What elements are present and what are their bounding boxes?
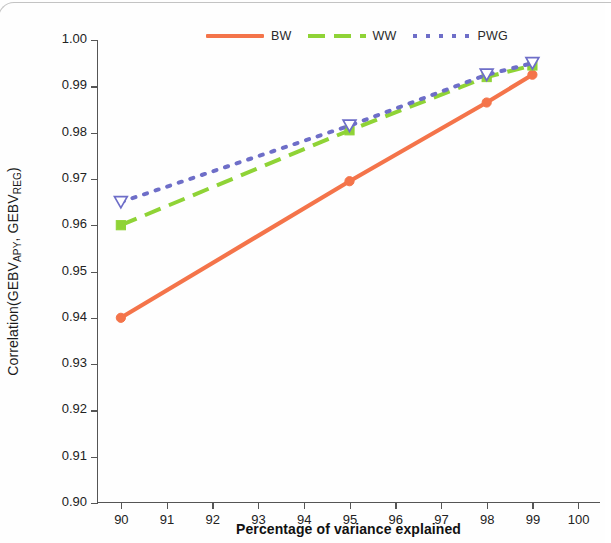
data-point-marker-bw [528, 70, 537, 79]
y-tick-label: 0.99 [62, 77, 87, 92]
x-tick-mark [395, 502, 396, 509]
y-tick-label: 0.91 [62, 448, 87, 463]
x-tick-mark [121, 502, 122, 509]
y-tick-label: 1.00 [62, 31, 87, 46]
y-tick-mark [91, 410, 98, 411]
x-tick-mark [487, 502, 488, 509]
data-point-marker-bw [482, 98, 491, 107]
y-axis-title: Correlation(GEBVAPY, GEBVREG) [0, 0, 28, 543]
x-tick-mark [532, 502, 533, 509]
x-tick-mark [441, 502, 442, 509]
y-tick-mark [91, 503, 98, 504]
plot-area: 0.900.910.920.930.940.950.960.970.980.99… [97, 40, 600, 503]
series-line-ww [121, 65, 533, 225]
series-line-bw [121, 75, 533, 318]
y-tick-label: 0.94 [62, 309, 87, 324]
x-tick-mark [578, 502, 579, 509]
data-point-marker-bw [345, 177, 354, 186]
series-canvas [98, 40, 601, 503]
x-tick-mark [212, 502, 213, 509]
y-tick-label: 0.92 [62, 401, 87, 416]
y-tick-mark [91, 179, 98, 180]
y-tick-mark [91, 272, 98, 273]
x-tick-mark [304, 502, 305, 509]
y-axis-title-text: Correlation(GEBVAPY, GEBVREG) [5, 167, 21, 375]
data-point-marker-ww [116, 221, 125, 230]
data-point-marker-bw [116, 313, 125, 322]
x-tick-mark [258, 502, 259, 509]
y-tick-label: 0.93 [62, 355, 87, 370]
y-tick-label: 0.90 [62, 494, 87, 509]
y-tick-label: 0.98 [62, 124, 87, 139]
y-tick-mark [91, 364, 98, 365]
y-tick-mark [91, 40, 98, 41]
y-tick-label: 0.95 [62, 263, 87, 278]
x-axis-title: Percentage of variance explained [97, 521, 600, 537]
y-tick-mark [91, 133, 98, 134]
x-tick-mark [167, 502, 168, 509]
y-tick-mark [91, 86, 98, 87]
y-tick-mark [91, 225, 98, 226]
y-tick-label: 0.96 [62, 216, 87, 231]
y-tick-mark [91, 457, 98, 458]
x-tick-mark [350, 502, 351, 509]
y-tick-label: 0.97 [62, 170, 87, 185]
y-tick-mark [91, 318, 98, 319]
